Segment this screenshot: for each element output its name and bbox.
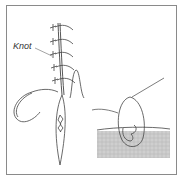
knot-leader-line bbox=[35, 48, 52, 56]
wound-incision bbox=[56, 95, 65, 165]
skin-fold bbox=[70, 70, 84, 98]
knot-label: Knot bbox=[13, 41, 32, 51]
suture-line bbox=[58, 23, 64, 95]
tissue-block bbox=[97, 131, 170, 158]
suture-illustration bbox=[0, 0, 183, 184]
skin-surface bbox=[97, 127, 170, 130]
curved-needle bbox=[14, 89, 58, 121]
